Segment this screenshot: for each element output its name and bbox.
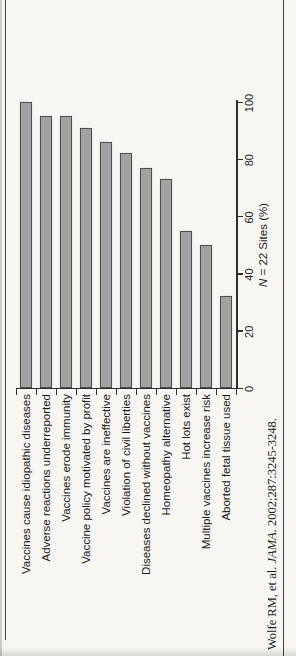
category-axis-tick xyxy=(136,389,137,395)
category-label: Hot lots exist xyxy=(176,394,196,616)
category-axis-tick xyxy=(156,389,157,395)
bar xyxy=(160,179,172,388)
bar xyxy=(40,116,52,388)
bar xyxy=(200,245,212,388)
citation-authors: Wolfe RM, et al. xyxy=(265,564,279,650)
category-label: Vaccines are ineffective xyxy=(96,394,116,616)
rotated-figure-container: N = 22 Sites (%) Vaccines cause idiopath… xyxy=(0,0,296,656)
value-axis-tick-label: 80 xyxy=(243,145,255,175)
value-axis-tick xyxy=(238,216,243,217)
category-axis-tick xyxy=(96,389,97,395)
citation-issue: 2002;287:3245-3248. xyxy=(265,418,279,529)
axis-title-rest: = 22 Sites (%) xyxy=(257,203,269,279)
bar xyxy=(220,297,232,389)
category-axis-tick xyxy=(236,389,237,395)
value-axis-tick-label: 0 xyxy=(243,374,255,404)
bar xyxy=(80,128,92,388)
value-axis-tick-label: 60 xyxy=(243,202,255,232)
bar xyxy=(60,116,72,388)
bar-chart: N = 22 Sites (%) Vaccines cause idiopath… xyxy=(0,0,296,656)
category-axis-tick xyxy=(16,389,17,395)
bar xyxy=(100,142,112,388)
citation: Wolfe RM, et al. JAMA. 2002;287:3245-324… xyxy=(265,418,280,650)
bar xyxy=(20,102,32,388)
bar xyxy=(120,154,132,389)
bar xyxy=(180,231,192,388)
axis-title-n: N xyxy=(257,279,269,287)
category-axis-tick xyxy=(36,389,37,395)
value-axis-title: N = 22 Sites (%) xyxy=(257,102,269,388)
citation-journal: JAMA. xyxy=(265,529,279,563)
category-axis-tick xyxy=(176,389,177,395)
category-label: Vaccine policy motivated by profit xyxy=(76,394,96,616)
value-axis-tick-label: 100 xyxy=(243,88,255,118)
category-axis-tick xyxy=(56,389,57,395)
category-axis-tick xyxy=(116,389,117,395)
value-axis-line xyxy=(236,100,238,389)
journal-figure: N = 22 Sites (%) Vaccines cause idiopath… xyxy=(0,0,296,656)
value-axis-tick-label: 20 xyxy=(243,317,255,347)
value-axis-tick-label: 40 xyxy=(243,260,255,290)
category-axis-tick xyxy=(76,389,77,395)
category-label: Vaccines erode immunity xyxy=(56,394,76,616)
category-label: Vaccines cause idiopathic diseases xyxy=(16,394,36,616)
bar xyxy=(140,168,152,388)
value-axis-tick xyxy=(238,330,243,331)
category-label: Homeopathy alternative xyxy=(156,394,176,616)
value-axis-tick xyxy=(238,159,243,160)
category-label: Multiple vaccines increase risk xyxy=(196,394,216,616)
category-label: Adverse reactions underreported xyxy=(36,394,56,616)
value-axis-tick xyxy=(238,388,243,389)
category-label: Violation of civil liberties xyxy=(116,394,136,616)
value-axis-tick xyxy=(238,273,243,274)
value-axis-tick xyxy=(238,102,243,103)
category-label: Diseases declined without vaccines xyxy=(136,394,156,616)
category-axis-tick xyxy=(196,389,197,395)
category-axis-tick xyxy=(216,389,217,395)
scanned-page: N = 22 Sites (%) Vaccines cause idiopath… xyxy=(0,0,296,656)
category-axis-line xyxy=(16,388,237,390)
category-label: Aborted fetal tissue used xyxy=(216,394,236,616)
